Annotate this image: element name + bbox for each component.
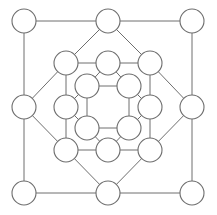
node-o7 — [96, 181, 120, 205]
node-m1 — [54, 51, 78, 75]
node-o4 — [12, 95, 36, 119]
node-i3 — [75, 116, 99, 140]
node-o3 — [180, 9, 204, 33]
node-m3 — [138, 51, 162, 75]
node-i2 — [117, 74, 141, 98]
node-m2 — [96, 51, 120, 75]
node-o5 — [180, 95, 204, 119]
node-m8 — [138, 138, 162, 162]
node-layer — [12, 9, 204, 205]
node-o1 — [12, 9, 36, 33]
network-diagram — [0, 0, 217, 215]
node-i4 — [117, 116, 141, 140]
node-o8 — [180, 181, 204, 205]
node-m4 — [54, 95, 78, 119]
node-m7 — [96, 138, 120, 162]
node-m5 — [138, 95, 162, 119]
node-o2 — [96, 9, 120, 33]
edge-layer — [24, 21, 192, 193]
node-i1 — [75, 74, 99, 98]
node-o6 — [12, 181, 36, 205]
node-m6 — [54, 138, 78, 162]
